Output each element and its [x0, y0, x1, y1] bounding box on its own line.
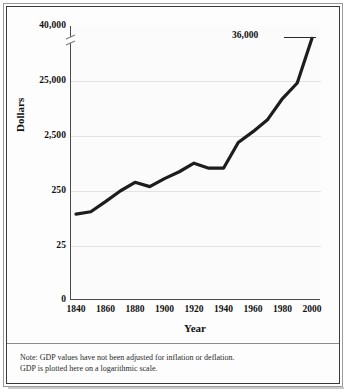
x-tick-label: 2000: [295, 304, 329, 314]
footnote-line-1: Note: GDP values have not been adjusted …: [20, 352, 326, 363]
endpoint-leader-line: [284, 37, 316, 38]
y-tick-label: 25: [4, 240, 66, 250]
gdp-line: [76, 38, 312, 214]
y-tick-label: 250: [4, 185, 66, 195]
data-series-gdp: [70, 26, 320, 300]
x-axis-title: Year: [70, 322, 320, 334]
footnote-line-2: GDP is plotted here on a logarithmic sca…: [20, 363, 326, 374]
footnote: Note: GDP values have not been adjusted …: [20, 352, 326, 374]
y-tick-label: 40,000: [4, 20, 66, 30]
y-axis-title: Dollars: [14, 98, 26, 132]
figure-panel: 40,00025,0002,500250250 1840186018801900…: [0, 0, 346, 390]
y-axis-ticks: 40,00025,0002,500250250: [0, 0, 66, 390]
y-tick-label: 0: [4, 294, 66, 304]
footnote-divider: [7, 343, 339, 344]
chart: 40,00025,0002,500250250 1840186018801900…: [0, 0, 346, 390]
y-tick-label: 25,000: [4, 75, 66, 85]
endpoint-value-label: 36,000: [232, 30, 258, 40]
